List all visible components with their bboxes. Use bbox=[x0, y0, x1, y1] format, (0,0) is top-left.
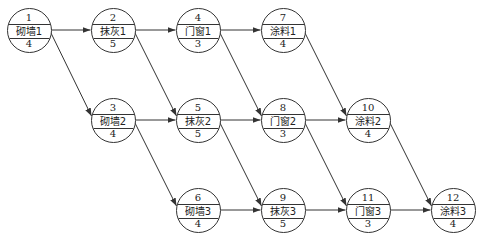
node-duration: 5 bbox=[92, 38, 135, 49]
arrow-10-to-12 bbox=[390, 122, 432, 206]
node-activity-label: 抹灰3 bbox=[262, 204, 305, 219]
arrow-7-to-10 bbox=[305, 32, 347, 116]
node-duration: 4 bbox=[262, 38, 305, 49]
node-number: 6 bbox=[177, 192, 220, 203]
node-activity-label: 涂料2 bbox=[347, 114, 390, 129]
node-number: 10 bbox=[347, 102, 390, 113]
node-number: 2 bbox=[92, 12, 135, 23]
activity-node-1: 1 砌墙1 4 bbox=[7, 8, 52, 53]
arrow-8-to-11 bbox=[305, 122, 347, 206]
node-number: 3 bbox=[92, 102, 135, 113]
node-activity-label: 门窗2 bbox=[262, 114, 305, 129]
node-number: 4 bbox=[177, 12, 220, 23]
network-diagram: 1 砌墙1 4 2 抹灰1 5 4 门窗1 3 7 涂料1 4 3 砌墙2 4 … bbox=[0, 0, 484, 242]
node-number: 12 bbox=[432, 192, 475, 203]
activity-node-11: 11 门窗3 3 bbox=[346, 188, 391, 233]
activity-node-7: 7 涂料1 4 bbox=[261, 8, 306, 53]
node-activity-label: 门窗3 bbox=[347, 204, 390, 219]
node-duration: 3 bbox=[177, 38, 220, 49]
node-duration: 4 bbox=[347, 128, 390, 139]
activity-node-10: 10 涂料2 4 bbox=[346, 98, 391, 143]
activity-node-3: 3 砌墙2 4 bbox=[91, 98, 136, 143]
activity-node-2: 2 抹灰1 5 bbox=[91, 8, 136, 53]
node-number: 5 bbox=[177, 102, 220, 113]
activity-node-4: 4 门窗1 3 bbox=[176, 8, 221, 53]
activity-node-8: 8 门窗2 3 bbox=[261, 98, 306, 143]
node-number: 11 bbox=[347, 192, 390, 203]
node-duration: 4 bbox=[432, 218, 475, 229]
activity-node-9: 9 抹灰3 5 bbox=[261, 188, 306, 233]
node-duration: 5 bbox=[177, 128, 220, 139]
node-activity-label: 砌墙3 bbox=[177, 204, 220, 219]
arrows-layer bbox=[0, 0, 484, 242]
activity-node-6: 6 砌墙3 4 bbox=[176, 188, 221, 233]
node-activity-label: 涂料1 bbox=[262, 24, 305, 39]
arrow-4-to-8 bbox=[220, 32, 262, 116]
arrow-1-to-3 bbox=[51, 32, 92, 116]
node-duration: 4 bbox=[92, 128, 135, 139]
activity-node-5: 5 抹灰2 5 bbox=[176, 98, 221, 143]
node-activity-label: 抹灰2 bbox=[177, 114, 220, 129]
node-duration: 5 bbox=[262, 218, 305, 229]
node-activity-label: 砌墙1 bbox=[8, 24, 51, 39]
node-activity-label: 抹灰1 bbox=[92, 24, 135, 39]
node-activity-label: 砌墙2 bbox=[92, 114, 135, 129]
node-duration: 4 bbox=[8, 38, 51, 49]
node-number: 9 bbox=[262, 192, 305, 203]
arrow-5-to-9 bbox=[220, 122, 262, 206]
node-duration: 4 bbox=[177, 218, 220, 229]
arrow-3-to-6 bbox=[135, 122, 177, 206]
node-activity-label: 门窗1 bbox=[177, 24, 220, 39]
arrow-2-to-5 bbox=[135, 32, 177, 116]
node-number: 1 bbox=[8, 12, 51, 23]
node-activity-label: 涂料3 bbox=[432, 204, 475, 219]
activity-node-12: 12 涂料3 4 bbox=[431, 188, 476, 233]
node-number: 7 bbox=[262, 12, 305, 23]
node-number: 8 bbox=[262, 102, 305, 113]
node-duration: 3 bbox=[347, 218, 390, 229]
node-duration: 3 bbox=[262, 128, 305, 139]
